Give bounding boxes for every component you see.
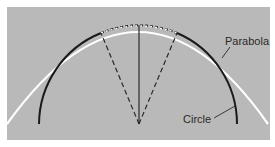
circle-parabola-diagram	[0, 0, 275, 147]
circle-arc-left	[39, 33, 101, 124]
dashed-radius-left	[101, 33, 139, 124]
dashed-radius-right	[139, 33, 177, 124]
circle-leader-line	[214, 106, 235, 118]
circle-label: Circle	[183, 113, 211, 125]
parabola-label: Parabola	[225, 35, 269, 47]
parabola-leader-line	[222, 47, 230, 58]
